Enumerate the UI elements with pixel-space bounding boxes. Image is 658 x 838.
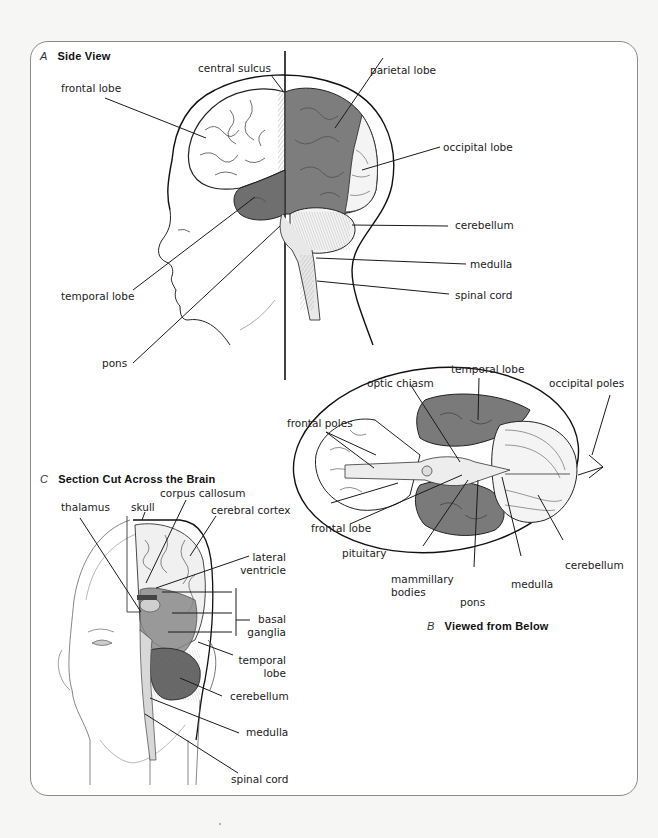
panel-b-title: BViewed from Below [427,620,549,632]
label-lateral-line2: ventricle [240,564,286,576]
panel-c-title: CSection Cut Across the Brain [40,473,216,485]
label-occipital-lobe: occipital lobe [443,141,513,154]
label-temporal-lobe-b: temporal lobe [451,363,524,376]
label-spinal-cord-c: spinal cord [231,773,288,786]
label-cerebellum-a: cerebellum [455,219,514,232]
label-lateral-ventricle: lateral ventricle [238,551,286,577]
label-frontal-lobe-b: frontal lobe [311,522,371,535]
label-temporal-lobe-c: temporal lobe [232,654,286,680]
label-frontal-lobe: frontal lobe [61,82,121,95]
label-mammillary-line1: mammillary [391,573,454,585]
label-basal-ganglia: basal ganglia [238,613,286,639]
label-optic-chiasm: optic chiasm [367,377,434,390]
label-basal-line1: basal [258,613,286,625]
label-temporal-c-line1: temporal [238,654,286,666]
label-medulla-c: medulla [246,726,288,739]
label-mammillary-bodies: mammillary bodies [391,573,454,599]
label-cerebellum-c: cerebellum [230,690,289,703]
label-parietal-lobe: parietal lobe [370,64,436,77]
panel-b-letter: B [427,620,435,632]
panel-c-letter: C [40,473,48,485]
panel-b-title-text: Viewed from Below [445,620,549,632]
label-cerebral-cortex: cerebral cortex [211,504,291,517]
label-spinal-cord-a: spinal cord [455,289,512,302]
label-medulla-b: medulla [511,578,553,591]
side-view-illustration [159,51,394,380]
label-basal-line2: ganglia [247,626,286,638]
label-lateral-line1: lateral [252,551,286,563]
label-pons-b: pons [460,596,485,609]
label-mammillary-line2: bodies [391,586,426,598]
label-pituitary: pituitary [342,547,386,560]
panel-c-title-text: Section Cut Across the Brain [58,473,215,485]
label-pons-a: pons [102,357,127,370]
label-central-sulcus: central sulcus [198,62,271,75]
label-occipital-poles: occipital poles [549,377,624,390]
label-temporal-c-line2: lobe [264,667,286,679]
label-cerebellum-b: cerebellum [565,559,624,572]
panel-a-letter: A [40,50,48,62]
label-temporal-lobe-a: temporal lobe [61,290,134,303]
label-medulla-a: medulla [470,258,512,271]
panel-a-title: ASide View [40,50,111,62]
print-speck [219,823,221,825]
label-thalamus: thalamus [61,501,110,514]
label-skull: skull [131,501,155,514]
label-corpus-callosum: corpus callosum [160,487,245,500]
section-cut-illustration [58,516,215,785]
panel-a-title-text: Side View [58,50,111,62]
label-frontal-poles: frontal poles [287,417,353,430]
